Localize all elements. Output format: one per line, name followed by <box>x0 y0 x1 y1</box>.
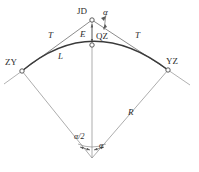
tangent-extension-left <box>4 71 22 84</box>
zy-label: ZY <box>5 58 17 67</box>
yz-point-marker <box>166 68 170 72</box>
tangent-extension-right <box>168 70 190 85</box>
zy-point-marker <box>20 69 24 73</box>
point-markers-group <box>20 18 170 73</box>
half-angle-label: α/2 <box>74 133 84 141</box>
jd-point-marker <box>90 18 94 22</box>
arc-length-label: L <box>58 52 63 61</box>
horizontal-curve-diagram: JD α E QZ T T L ZY YZ R α/2 α <box>0 0 199 172</box>
tangent-lines-group <box>22 20 168 71</box>
radius-line-left <box>22 71 92 158</box>
alpha-top-label: α <box>103 8 108 17</box>
central-angle-label: α <box>99 142 103 150</box>
qz-label: QZ <box>96 32 108 41</box>
qz-point-marker <box>90 43 94 47</box>
tangent-left-label: T <box>48 31 53 40</box>
jd-label: JD <box>77 7 87 16</box>
radius-lines-group <box>22 70 168 158</box>
external-distance-label: E <box>80 30 86 39</box>
circular-curve-arc <box>22 41 168 71</box>
radius-label: R <box>128 108 134 117</box>
yz-label: YZ <box>166 57 178 66</box>
tangent-right-label: T <box>135 31 140 40</box>
